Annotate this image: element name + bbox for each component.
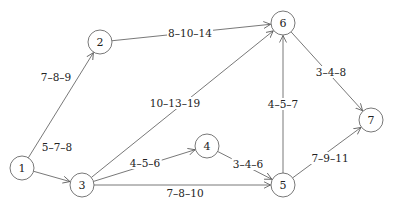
edge-label: 7–9–11 (310, 152, 349, 164)
edge-label: 10–13–19 (149, 97, 202, 109)
node-label: 2 (97, 36, 104, 49)
node-label: 7 (368, 114, 375, 127)
node-7: 7 (359, 108, 383, 132)
node-1: 1 (10, 156, 34, 180)
node-3: 3 (70, 173, 94, 197)
edge-label: 7–8–9 (40, 71, 73, 83)
node-label: 1 (19, 162, 26, 175)
node-5: 5 (271, 173, 295, 197)
edge-label: 7–8–10 (165, 187, 204, 199)
node-6: 6 (271, 11, 295, 35)
node-label: 5 (280, 179, 287, 192)
edge-1-3 (34, 171, 70, 181)
node-2: 2 (88, 30, 112, 54)
node-label: 3 (79, 179, 86, 192)
node-4: 4 (195, 134, 219, 158)
edge-label: 3–4–8 (315, 66, 348, 78)
edge-label: 4–5–6 (129, 157, 162, 169)
edge-label: 5–7–8 (41, 141, 74, 153)
arrow-icon (34, 171, 70, 181)
edge-label: 3–4–6 (232, 158, 265, 170)
edge-label: 8–10–14 (167, 27, 213, 39)
node-label: 4 (204, 140, 211, 153)
edge-label: 4–5–7 (267, 98, 300, 110)
node-label: 6 (280, 17, 287, 30)
